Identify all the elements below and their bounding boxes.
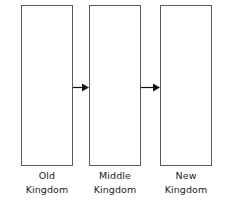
period-box-new-kingdom xyxy=(160,5,212,166)
kingdom-timeline-diagram: Old Kingdom Middle Kingdom New Kingdom xyxy=(0,0,226,204)
arrow-head xyxy=(153,84,160,92)
period-label-line2: Kingdom xyxy=(160,183,212,197)
period-label-middle-kingdom: Middle Kingdom xyxy=(89,169,141,197)
period-label-line1: Middle xyxy=(89,169,141,183)
period-box-old-kingdom xyxy=(21,5,73,166)
period-label-new-kingdom: New Kingdom xyxy=(160,169,212,197)
period-label-old-kingdom: Old Kingdom xyxy=(21,169,73,197)
arrow-middle-to-new xyxy=(141,82,161,94)
period-label-line1: Old xyxy=(21,169,73,183)
period-label-line2: Kingdom xyxy=(21,183,73,197)
period-label-line1: New xyxy=(160,169,212,183)
arrow-old-to-middle xyxy=(73,82,90,94)
period-label-line2: Kingdom xyxy=(89,183,141,197)
arrow-head xyxy=(82,84,89,92)
period-box-middle-kingdom xyxy=(89,5,141,166)
